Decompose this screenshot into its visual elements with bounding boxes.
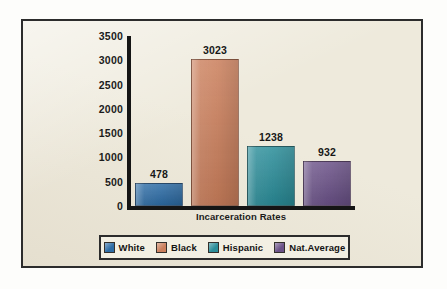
legend-swatch-icon	[156, 242, 167, 253]
bar-white	[135, 183, 183, 206]
bar-slot: 1238	[247, 36, 295, 206]
y-axis-tick-label: 3000	[85, 55, 123, 66]
legend-label: Nat.Average	[289, 242, 345, 253]
x-axis-title: Incarceration Rates	[127, 211, 355, 222]
bar-slot: 478	[135, 36, 183, 206]
bar-value-label: 932	[318, 146, 336, 158]
bar-hispanic	[247, 146, 295, 206]
y-axis-tick-labels: 3500300025002000150010005000	[85, 21, 123, 270]
bar-group: 47830231238932	[131, 36, 355, 206]
x-axis-line	[127, 206, 355, 210]
legend-item-hispanic: Hispanic	[208, 242, 263, 253]
chart-legend: WhiteBlackHispanicNat.Average	[99, 235, 350, 260]
chart-panel: 3500300025002000150010005000 47830231238…	[21, 19, 423, 268]
plot-area: 3500300025002000150010005000 47830231238…	[23, 21, 425, 270]
legend-label: White	[119, 242, 145, 253]
legend-item-nat-average: Nat.Average	[274, 242, 345, 253]
legend-swatch-icon	[274, 242, 285, 253]
bar-slot: 932	[303, 36, 351, 206]
legend-label: Hispanic	[223, 242, 263, 253]
y-axis-tick-label: 500	[85, 177, 123, 188]
y-axis-tick-label: 0	[85, 201, 123, 212]
legend-swatch-icon	[208, 242, 219, 253]
legend-item-black: Black	[156, 242, 197, 253]
y-axis-tick-label: 2000	[85, 104, 123, 115]
bar-value-label: 478	[150, 168, 168, 180]
legend-swatch-icon	[104, 242, 115, 253]
bar-value-label: 1238	[259, 131, 283, 143]
bar-value-label: 3023	[203, 44, 227, 56]
y-axis-tick-label: 2500	[85, 80, 123, 91]
bar-slot: 3023	[191, 36, 239, 206]
legend-item-white: White	[104, 242, 145, 253]
bar-black	[191, 59, 239, 206]
bar-nat-average	[303, 161, 351, 206]
y-axis-tick-label: 3500	[85, 31, 123, 42]
legend-label: Black	[171, 242, 197, 253]
y-axis-tick-label: 1000	[85, 152, 123, 163]
scanned-page: 3500300025002000150010005000 47830231238…	[0, 0, 447, 289]
y-axis-tick-label: 1500	[85, 128, 123, 139]
